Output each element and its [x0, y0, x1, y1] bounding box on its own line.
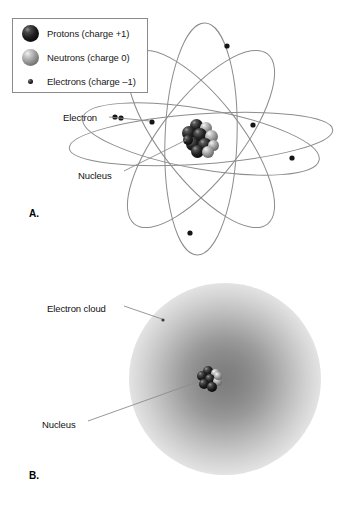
panel-letter-a: A. — [29, 208, 39, 219]
neutron-sphere-icon — [13, 49, 47, 66]
nucleus-cluster-panel-b — [196, 366, 224, 394]
legend-label-neutrons: Neutrons (charge 0) — [47, 52, 130, 63]
label-nucleus-panel-a: Nucleus — [78, 170, 112, 181]
legend-item-protons: Protons (charge +1) — [13, 21, 147, 46]
legend-item-neutrons: Neutrons (charge 0) — [13, 45, 147, 70]
legend-label-electrons: Electrons (charge –1) — [47, 76, 136, 87]
proton-sphere-icon — [13, 25, 47, 42]
legend-box: Protons (charge +1) Neutrons (charge 0) … — [12, 18, 148, 93]
label-nucleus-panel-b: Nucleus — [42, 419, 76, 430]
figure-root: Electron Nucleus A. Electron cloud Nucle… — [0, 0, 357, 526]
panel-letter-b: B. — [29, 470, 39, 481]
label-electron-cloud: Electron cloud — [47, 303, 106, 314]
legend-item-electrons: Electrons (charge –1) — [13, 69, 147, 94]
legend-label-protons: Protons (charge +1) — [47, 28, 129, 39]
electron-cloud-gradient — [129, 283, 321, 475]
label-electron-panel-a: Electron — [63, 112, 97, 123]
nucleus-cluster-panel-a — [181, 119, 221, 159]
electron-dot-icon — [13, 79, 47, 84]
